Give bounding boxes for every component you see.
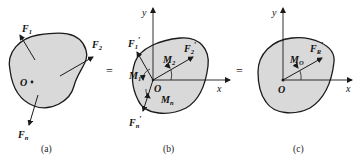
equals-sign-1: = <box>106 64 113 78</box>
figure-a: O F1 F2 Fn (a) <box>9 23 102 155</box>
point-o-c <box>282 79 285 82</box>
rigid-body-a <box>9 33 86 108</box>
force-label-fn-prime: Fn′ <box>128 115 142 129</box>
point-o-b <box>152 79 155 82</box>
equals-sign-2: = <box>236 64 243 78</box>
y-axis-label-c: y <box>271 7 277 18</box>
caption-c: (c) <box>293 144 304 155</box>
origin-label-a: O <box>20 77 27 88</box>
figure-c: y x O FR′ MO (c) <box>258 7 352 155</box>
origin-label-b: O <box>154 83 161 94</box>
figure-b: y x O F1′ F2′ Fn′ M1 M2 Mn (b) <box>127 7 230 155</box>
force-label-f1-prime: F1′ <box>127 36 140 50</box>
force-label-fn: Fn <box>17 129 29 141</box>
origin-label-c: O <box>278 84 285 95</box>
x-axis-label-c: x <box>345 83 351 94</box>
caption-b: (b) <box>163 144 174 155</box>
point-o-a <box>31 81 34 84</box>
y-axis-label-b: y <box>141 7 147 18</box>
force-system-diagram: O F1 F2 Fn (a) = y x O F1′ F2′ Fn′ M1 M2… <box>0 0 357 166</box>
x-axis-label-b: x <box>216 83 222 94</box>
force-label-f2: F2 <box>91 39 103 51</box>
caption-a: (a) <box>41 144 52 155</box>
force-label-f1: F1 <box>21 23 32 35</box>
